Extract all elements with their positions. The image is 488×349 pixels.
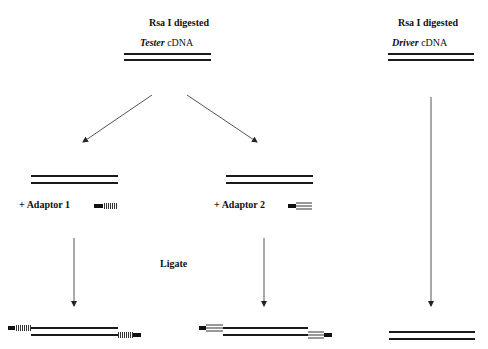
adaptor1-glyph-icon bbox=[94, 203, 117, 209]
branch1-ligated-product bbox=[8, 325, 141, 338]
diagram-graphics bbox=[0, 0, 488, 349]
arrow-tester-to-branch2-icon bbox=[187, 95, 257, 142]
arrow-tester-to-branch1-icon bbox=[83, 95, 152, 142]
branch2-ligated-product bbox=[199, 325, 332, 338]
adaptor2-glyph-icon bbox=[288, 203, 312, 209]
